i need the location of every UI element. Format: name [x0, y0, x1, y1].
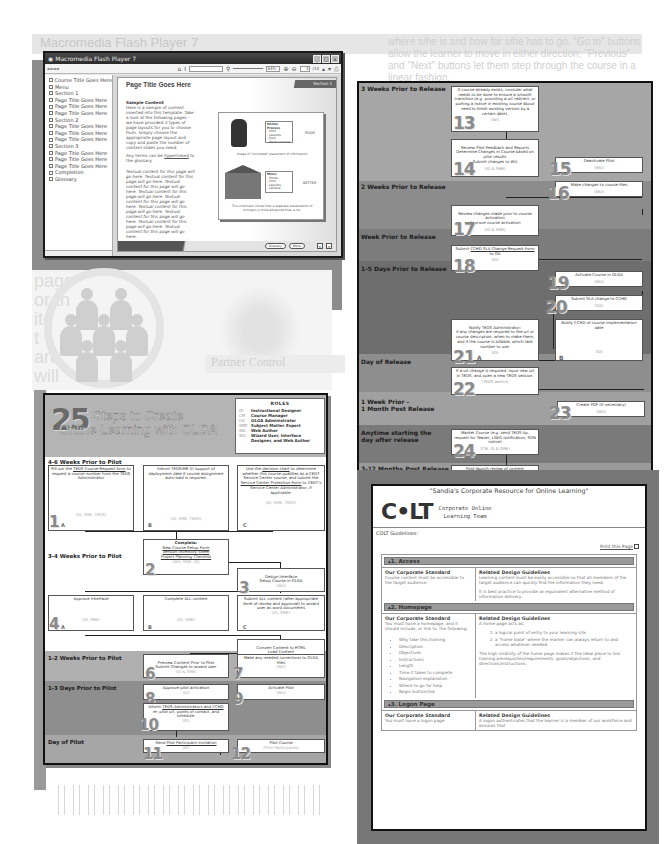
print-icon[interactable]: ⎙ [334, 65, 339, 73]
next-page-button[interactable]: > [326, 243, 332, 249]
step-number-22: 22 [453, 381, 475, 398]
step-3-box: Design Interface Setup Course in OLGA(WU… [237, 568, 325, 592]
background-faded-title: Macromedia Flash Player 7 [40, 35, 198, 50]
outline-item[interactable]: Page Title Goes Here [49, 136, 112, 143]
step-21-sub-b: B [559, 354, 564, 361]
step-4b-box: Complete ALL content(ID, SME) [143, 595, 229, 631]
home-icon[interactable]: ⌂ [177, 65, 181, 72]
background-line-pattern [50, 785, 320, 815]
better-label: BETTER [303, 181, 316, 185]
steps-header: 25 Steps to Create Online Learning with … [45, 395, 326, 457]
outline-item[interactable]: Menu [49, 84, 112, 91]
poor-label: POOR [305, 131, 315, 135]
step-number-9: 9 [233, 692, 242, 707]
flash-player-window: ◉ Macromedia Flash Player 7 _ □ x ▰▰▰▰ ⌂… [43, 51, 343, 258]
zoom-slider[interactable] [233, 68, 263, 69]
outline-item[interactable]: Course Title Goes Here [49, 77, 112, 84]
step-number-6: 6 [145, 667, 154, 682]
outline-item[interactable]: Page Title Goes Here [49, 150, 112, 157]
menu-button[interactable]: Menu [289, 243, 305, 249]
page-icon [49, 98, 53, 102]
back-icon[interactable]: ⊖ [292, 65, 297, 72]
section-header-access[interactable]: ▴1. Access [384, 557, 634, 565]
colt-header: C•LT Corporate OnlineLearning Team [373, 496, 645, 528]
page-footer-bar: Glossary Menu < > [118, 241, 336, 251]
step-number-16: 16 [547, 185, 569, 202]
page-icon [49, 164, 53, 168]
step-21-sub-a: A [477, 354, 482, 361]
better-menu-example: Menu - Home - Intro - Lessons - Lecture [265, 171, 293, 193]
close-button[interactable]: x [331, 55, 339, 63]
colt-tagline: "Sandia's Corporate Resource for Online … [373, 486, 645, 496]
section-tab: Section 1 [284, 80, 336, 88]
colt-guidelines-page: "Sandia's Corporate Resource for Online … [371, 484, 647, 831]
glossary-link[interactable]: hyperlinked [164, 153, 189, 158]
step-number-14: 14 [453, 161, 475, 178]
steps-title-line2: Online Learning with OLGA [59, 423, 217, 437]
guideline-row: Our Corporate Standard Course content mu… [382, 567, 636, 601]
step-number-3: 3 [239, 581, 248, 596]
outline-item[interactable]: Page Title Goes Here [49, 163, 112, 170]
cchd-sla-form-link[interactable]: CCHD SLA Change Request Form [470, 246, 534, 251]
figure-caption-2: This schematic shows how a separate pres… [227, 205, 317, 212]
window-titlebar[interactable]: ◉ Macromedia Flash Player 7 _ □ x [45, 53, 341, 64]
maximize-button[interactable]: □ [322, 55, 330, 63]
step-number-18: 18 [453, 258, 475, 275]
outline-item[interactable]: Completion [49, 169, 112, 176]
guideline-row: Our Corporate Standard You must have a l… [382, 710, 636, 730]
page-icon [49, 144, 53, 148]
outline-item[interactable]: Page Title Goes Here [49, 156, 112, 163]
text-cursor-icon[interactable]: I [184, 65, 186, 72]
outline-item[interactable]: Page Title Goes Here [49, 110, 112, 117]
zoom-level[interactable]: 64% [266, 66, 280, 72]
page-icon [49, 138, 53, 142]
zoom-in-icon[interactable]: ⊕ [283, 65, 288, 72]
toolbar-logo: ▰▰▰▰ [47, 66, 75, 71]
step-6-box: Preview Content Prior to Pilot Submit Ch… [143, 654, 229, 678]
step-4-sub-b: B [148, 624, 152, 630]
comparison-figure: Online Process - Intro - Lessons - Quiz … [218, 112, 324, 220]
outline-item[interactable]: Page Title Goes Here [49, 103, 112, 110]
prev-page-icon[interactable]: ▴ [322, 65, 325, 72]
colt-logo-text: Corporate OnlineLearning Team [439, 504, 492, 520]
page-icon [49, 171, 53, 175]
outline-item[interactable]: Section 3 [49, 143, 112, 150]
step-8-box: Approve pilot activation(ID) [143, 684, 229, 700]
outline-item[interactable]: Section 2 [49, 117, 112, 124]
page-number-input[interactable]: 4 [300, 66, 310, 72]
pilot-invitation-link[interactable]: Pilot Participant Invitation [167, 740, 217, 745]
section-header-homepage[interactable]: ▴2. Homepage [384, 603, 634, 611]
minimize-button[interactable]: _ [313, 55, 321, 63]
page-icon [49, 118, 53, 122]
page-icon [49, 78, 53, 82]
page-viewport: Page Title Goes Here Section 1 Sample Co… [113, 75, 341, 256]
page-body-text: Sample Content Here is a sample of conte… [126, 100, 196, 242]
outline-item[interactable]: Page Title Goes Here [49, 130, 112, 137]
roles-legend: ROLES IDInstructional Designer CMCourse … [235, 398, 325, 454]
background-partner-label: Partner Control [205, 355, 345, 373]
section-header-logon[interactable]: ▴3. Logon Page [384, 700, 634, 708]
outline-horizontal-scrollbar[interactable] [45, 250, 112, 256]
step-number-23: 23 [549, 405, 571, 422]
background-faded-text: where s/he is and how far s/he has to go… [388, 36, 648, 84]
steps-title-line1: Steps to Create [93, 409, 183, 423]
page-icon [49, 105, 53, 109]
release-timeline-flowchart: 3 Weeks Prior to Release 2 Weeks Prior t… [357, 81, 653, 472]
step-1c-box: Use the decision chart to determine whet… [237, 465, 325, 531]
colt-guidelines-label: COLT Guidelines: [373, 528, 645, 538]
outline-item[interactable]: Page Title Goes Here [49, 97, 112, 104]
outline-item[interactable]: Section 1 [49, 90, 112, 97]
search-icon[interactable]: ⚲ [226, 65, 230, 72]
next-page-icon[interactable]: ▾ [328, 65, 331, 72]
step-number-10: 10 [139, 718, 158, 733]
print-page-link[interactable]: Print this Page [373, 544, 645, 549]
page-icon [49, 157, 53, 161]
search-input[interactable] [189, 66, 223, 72]
outline-item[interactable]: Page Title Goes Here [49, 123, 112, 130]
step-21b-box: Notify CCHD of course implementation dat… [555, 319, 643, 361]
step-1-sub-b: B [148, 522, 152, 528]
outline-item[interactable]: Glossary [49, 176, 112, 183]
previous-page-button[interactable]: < [317, 243, 323, 249]
glossary-button[interactable]: Glossary [265, 243, 286, 249]
step-number-21: 21 [453, 349, 475, 366]
